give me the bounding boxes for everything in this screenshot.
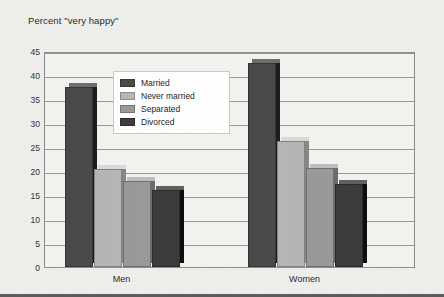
- legend-item-never-married: Never married: [120, 89, 224, 102]
- bar-face: [65, 87, 93, 267]
- gridline: [45, 149, 414, 150]
- bar-men-separated: [123, 181, 151, 267]
- legend-item-married: Married: [120, 76, 224, 89]
- y-axis-tick-label: 45: [10, 47, 40, 57]
- x-axis-group-label-women: Women: [289, 274, 320, 284]
- legend-swatch-icon: [120, 105, 135, 113]
- x-axis-group-label-men: Men: [113, 274, 131, 284]
- y-axis-tick-label: 20: [10, 167, 40, 177]
- y-axis-tick-label: 10: [10, 215, 40, 225]
- bar-women-separated: [306, 168, 334, 267]
- bar-men-married: [65, 87, 93, 267]
- bar-men-divorced: [152, 190, 180, 267]
- chart-legend: MarriedNever marriedSeparatedDivorced: [113, 71, 230, 134]
- legend-swatch-icon: [120, 118, 135, 126]
- chart-title: Percent "very happy": [28, 15, 119, 26]
- bar-face: [335, 184, 363, 267]
- legend-item-divorced: Divorced: [120, 115, 224, 128]
- bar-face: [123, 181, 151, 267]
- legend-swatch-icon: [120, 92, 135, 100]
- y-axis-tick-label: 5: [10, 239, 40, 249]
- y-axis-tick-label: 15: [10, 191, 40, 201]
- y-axis-tick-label: 40: [10, 71, 40, 81]
- bar-face: [306, 168, 334, 267]
- bar-women-never-married: [277, 141, 305, 267]
- y-axis-tick-label: 30: [10, 119, 40, 129]
- legend-item-label: Divorced: [141, 117, 175, 127]
- legend-item-separated: Separated: [120, 102, 224, 115]
- legend-swatch-icon: [120, 79, 135, 87]
- legend-item-label: Never married: [141, 91, 195, 101]
- bar-men-never-married: [94, 169, 122, 267]
- legend-item-label: Separated: [141, 104, 180, 114]
- y-axis-tick-label: 25: [10, 143, 40, 153]
- y-axis: 051015202530354045: [8, 52, 40, 268]
- bar-women-married: [248, 63, 276, 267]
- bar-side-shadow: [363, 180, 367, 263]
- bar-side-shadow: [180, 186, 184, 263]
- bar-face: [248, 63, 276, 267]
- bar-face: [277, 141, 305, 267]
- bar-face: [94, 169, 122, 267]
- y-axis-tick-label: 35: [10, 95, 40, 105]
- bar-women-divorced: [335, 184, 363, 267]
- gridline: [45, 53, 414, 54]
- chart-page: Percent "very happy" 051015202530354045 …: [0, 0, 444, 297]
- bar-face: [152, 190, 180, 267]
- y-axis-tick-label: 0: [10, 263, 40, 273]
- legend-item-label: Married: [141, 78, 170, 88]
